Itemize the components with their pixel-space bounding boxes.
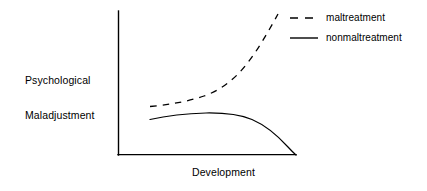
y-axis-label-line-2: Maladjustment (25, 110, 95, 122)
legend-label-maltreatment: maltreatment (326, 12, 385, 23)
chart-figure: Psychological Maladjustment Development … (0, 0, 427, 191)
x-axis-label: Development (192, 167, 255, 179)
series-line-maltreatment (150, 14, 278, 107)
y-axis-label: Psychological Maladjustment (25, 52, 95, 144)
legend-label-nonmaltreatment: nonmaltreatment (326, 32, 402, 43)
series-line-nonmaltreatment (150, 113, 296, 155)
y-axis-label-line-1: Psychological (25, 75, 95, 87)
